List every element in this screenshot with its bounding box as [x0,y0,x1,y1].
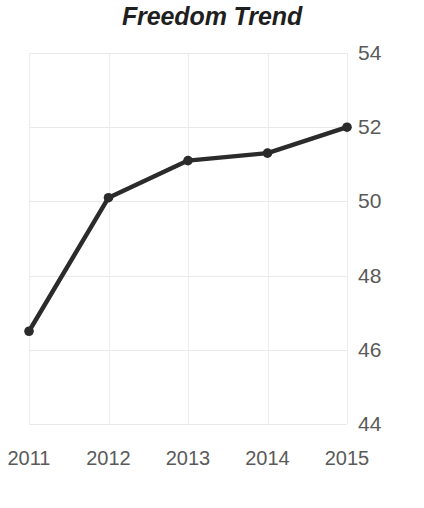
x-axis-tick-label: 2013 [143,448,233,468]
y-axis-tick-label: 54 [358,42,414,63]
series-line-chart [19,43,357,434]
y-axis-tick-label: 44 [358,413,414,434]
plot-area [29,53,347,424]
page-title: Freedom Trend [0,2,424,31]
y-axis-tick-label: 46 [358,339,414,360]
chart-page: Freedom Trend 44464850525420112012201320… [0,0,424,508]
x-axis-tick-label: 2012 [64,448,154,468]
x-axis-tick-label: 2015 [302,448,392,468]
data-point-marker [104,193,114,203]
y-axis-tick-label: 52 [358,116,414,137]
data-point-marker [342,122,352,132]
y-axis-tick-label: 48 [358,265,414,286]
data-point-marker [183,156,193,166]
y-axis-tick-label: 50 [358,190,414,211]
data-point-marker [263,148,273,158]
x-axis-tick-label: 2014 [223,448,313,468]
data-point-marker [24,326,34,336]
